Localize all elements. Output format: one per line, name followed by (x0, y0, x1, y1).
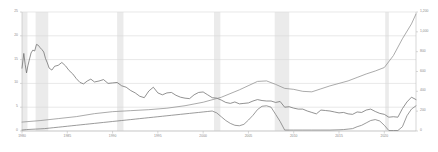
y-tick-label-left: 5 (2, 105, 18, 108)
x-tick-label: 1985 (58, 135, 76, 138)
x-tick-label: 2005 (239, 135, 257, 138)
y-tick-label-left: 20 (2, 34, 18, 37)
recession-bands (22, 12, 389, 131)
y-tick-label-right: 800 (420, 50, 438, 53)
x-tick-label: 2000 (194, 135, 212, 138)
x-tick-label: 1980 (13, 135, 31, 138)
x-tick-label: 2020 (375, 135, 393, 138)
y-tick-label-right: 1,000 (420, 30, 438, 33)
recession-band (117, 12, 123, 131)
y-tick-label-right: 1,200 (420, 10, 438, 13)
recession-band (385, 12, 389, 131)
x-tick-label: 1990 (104, 135, 122, 138)
y-tick-label-left: 0 (2, 129, 18, 132)
y-tick-label-right: 200 (420, 109, 438, 112)
x-tick-label: 1995 (149, 135, 167, 138)
y-tick-label-right: 400 (420, 89, 438, 92)
recession-band (36, 12, 49, 131)
recession-band (275, 12, 289, 131)
x-tick-label: 2015 (330, 135, 348, 138)
chart-plot-area (0, 0, 438, 152)
chart-container: 051015202502004006008001,0001,2001980198… (0, 0, 438, 152)
x-tick-label: 2010 (285, 135, 303, 138)
y-tick-label-left: 10 (2, 81, 18, 84)
y-tick-label-left: 25 (2, 10, 18, 13)
y-tick-label-right: 600 (420, 70, 438, 73)
y-tick-label-right: 0 (420, 129, 438, 132)
y-tick-label-left: 15 (2, 58, 18, 61)
